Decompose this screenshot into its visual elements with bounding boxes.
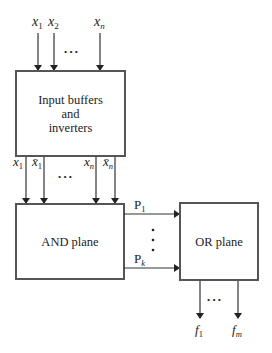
input-ellipsis: • • • <box>64 47 78 57</box>
product-label-pk: Pk <box>134 251 145 268</box>
input-label-x1: x1 <box>31 14 43 31</box>
input-label-x2: x2 <box>47 14 59 31</box>
input-block-line1: Input buffers <box>38 93 103 107</box>
product-label-p1: P1 <box>134 197 145 214</box>
input-block-line3: inverters <box>49 121 93 135</box>
input-block-line2: and <box>61 107 80 121</box>
input-label-xn: xn <box>93 14 105 31</box>
pla-diagram: x1 x2 xn • • • Input buffers and inverte… <box>0 0 272 353</box>
output-ellipsis: • • • <box>207 295 221 305</box>
product-ellipsis <box>152 229 155 252</box>
and-plane-label: AND plane <box>41 235 99 249</box>
output-label-f1: f1 <box>195 322 203 339</box>
input-labels: x1 x2 xn <box>31 14 105 31</box>
or-plane-label: OR plane <box>195 235 243 249</box>
output-label-fm: fm <box>232 322 242 339</box>
literal-ellipsis: • • • <box>58 172 72 182</box>
